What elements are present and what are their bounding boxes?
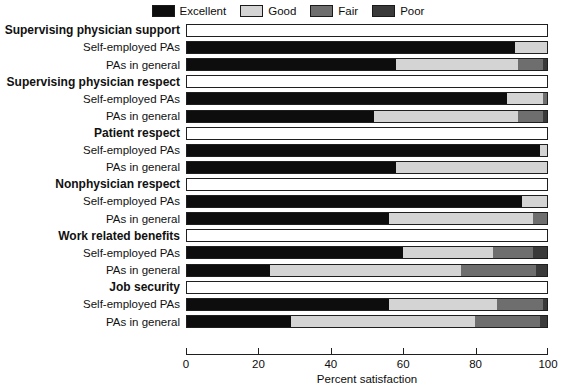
chart-plot-area: Supervising physician supportSelf-employ… <box>0 22 576 386</box>
bar-segment-excellent <box>187 111 374 122</box>
legend-swatch-icon <box>372 5 395 17</box>
chart-bar-row: Self-employed PAs <box>0 90 576 107</box>
bar-segment-poor <box>540 316 547 327</box>
chart-bar-row: PAs in general <box>0 107 576 124</box>
bar-segment-poor <box>543 111 547 122</box>
bar-segment-excellent <box>187 93 507 104</box>
chart-bar-row: Self-employed PAs <box>0 193 576 210</box>
x-axis-tick <box>476 348 477 354</box>
chart-bar-label: PAs in general <box>0 110 186 122</box>
stacked-bar <box>186 161 548 174</box>
chart-bar-row: Self-employed PAs <box>0 141 576 158</box>
bar-segment-poor <box>543 59 547 70</box>
chart-group-row: Job security <box>0 279 576 296</box>
bar-segment-excellent <box>187 42 515 53</box>
chart-group-row: Nonphysician respect <box>0 176 576 193</box>
chart-group-label: Work related benefits <box>0 229 186 243</box>
chart-bar-row: PAs in general <box>0 210 576 227</box>
bar-segment-poor <box>533 247 547 258</box>
bar-segment-fair <box>543 93 547 104</box>
stacked-bar <box>186 58 548 71</box>
chart-bar-label: PAs in general <box>0 59 186 71</box>
bar-segment-excellent <box>187 196 522 207</box>
chart-bar-label: PAs in general <box>0 316 186 328</box>
stacked-bar <box>186 195 548 208</box>
legend-swatch-icon <box>240 5 263 17</box>
bar-segment-excellent <box>187 59 396 70</box>
chart-spacer-bar <box>186 127 548 140</box>
bar-segment-excellent <box>187 299 389 310</box>
bar-segment-good <box>522 196 547 207</box>
chart-bar-label: Self-employed PAs <box>0 247 186 259</box>
chart-spacer-bar <box>186 24 548 37</box>
bar-segment-good <box>507 93 543 104</box>
x-axis-tick <box>186 348 187 354</box>
legend-item: Good <box>240 5 296 17</box>
x-axis-tick-label: 60 <box>397 358 410 370</box>
legend-item: Excellent <box>152 5 227 17</box>
bar-segment-fair <box>533 213 547 224</box>
chart-spacer-bar <box>186 229 548 242</box>
chart-spacer-bar <box>186 178 548 191</box>
chart-group-label: Nonphysician respect <box>0 177 186 191</box>
chart-bar-label: Self-employed PAs <box>0 144 186 156</box>
chart-bar-row: PAs in general <box>0 313 576 330</box>
stacked-bar <box>186 144 548 157</box>
stacked-bar <box>186 110 548 123</box>
legend-label: Fair <box>338 5 358 17</box>
x-axis-tick <box>547 348 548 354</box>
chart-bar-row: PAs in general <box>0 56 576 73</box>
chart-bar-label: Self-employed PAs <box>0 195 186 207</box>
chart-spacer-bar <box>186 75 548 88</box>
chart-group-label: Job security <box>0 280 186 294</box>
chart-bar-row: PAs in general <box>0 159 576 176</box>
bar-segment-fair <box>461 265 537 276</box>
x-axis-tick <box>403 348 404 354</box>
bar-segment-fair <box>518 59 543 70</box>
chart-bar-label: Self-employed PAs <box>0 298 186 310</box>
x-axis-tick-label: 80 <box>469 358 482 370</box>
stacked-bar <box>186 315 548 328</box>
chart-bar-row: Self-employed PAs <box>0 295 576 312</box>
chart-bar-label: Self-employed PAs <box>0 41 186 53</box>
legend-item: Poor <box>372 5 424 17</box>
stacked-bar <box>186 246 548 259</box>
chart-group-label: Patient respect <box>0 126 186 140</box>
bar-segment-excellent <box>187 316 291 327</box>
bar-segment-good <box>389 213 533 224</box>
bar-segment-good <box>374 111 518 122</box>
bar-segment-good <box>396 162 547 173</box>
x-axis-tick-label: 40 <box>324 358 337 370</box>
bar-segment-good <box>403 247 493 258</box>
bar-segment-fair <box>518 111 543 122</box>
chart-group-row: Supervising physician respect <box>0 73 576 90</box>
bar-segment-excellent <box>187 145 540 156</box>
bar-segment-good <box>396 59 518 70</box>
stacked-bar <box>186 212 548 225</box>
legend-item: Fair <box>310 5 358 17</box>
legend-label: Excellent <box>180 5 227 17</box>
x-axis-tick-label: 100 <box>538 358 557 370</box>
bar-segment-fair <box>493 247 533 258</box>
bar-segment-good <box>515 42 547 53</box>
bar-segment-good <box>540 145 547 156</box>
chart-bar-row: PAs in general <box>0 261 576 278</box>
stacked-bar <box>186 41 548 54</box>
chart-spacer-bar <box>186 281 548 294</box>
bar-segment-excellent <box>187 213 389 224</box>
chart-group-row: Patient respect <box>0 125 576 142</box>
stacked-bar <box>186 92 548 105</box>
bar-segment-good <box>291 316 475 327</box>
x-axis-tick-label: 20 <box>252 358 265 370</box>
legend-swatch-icon <box>152 5 175 17</box>
legend-swatch-icon <box>310 5 333 17</box>
x-axis-tick-label: 0 <box>183 358 189 370</box>
scan-artifact <box>0 382 576 386</box>
bar-segment-excellent <box>187 162 396 173</box>
bar-segment-excellent <box>187 265 270 276</box>
chart-bar-label: PAs in general <box>0 213 186 225</box>
chart-bar-label: PAs in general <box>0 264 186 276</box>
chart-rows: Supervising physician supportSelf-employ… <box>0 22 576 330</box>
chart-group-label: Supervising physician support <box>0 23 186 37</box>
bar-segment-poor <box>543 299 547 310</box>
